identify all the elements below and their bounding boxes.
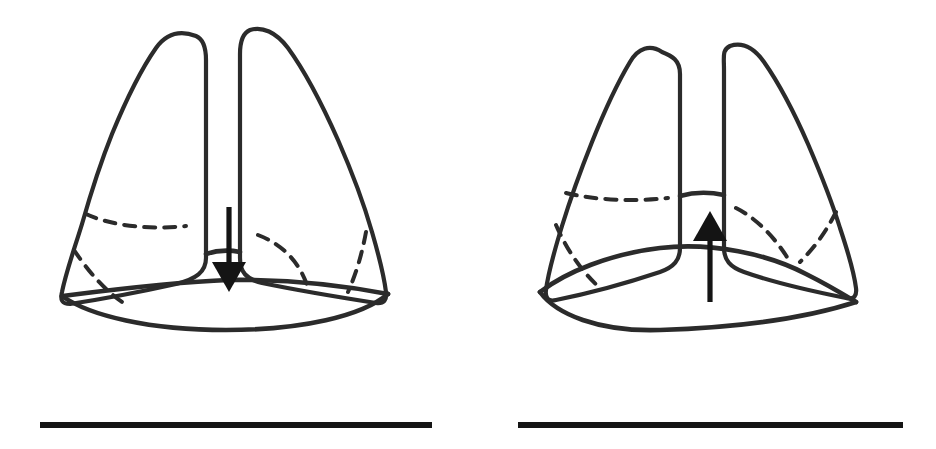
figure-root <box>0 0 936 449</box>
lung-diaphragm-illustration <box>0 0 936 449</box>
